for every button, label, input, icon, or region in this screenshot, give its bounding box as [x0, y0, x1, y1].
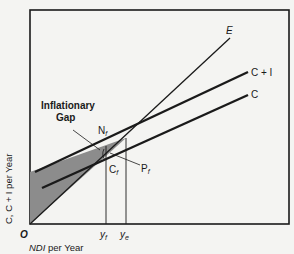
yf-label: yf [99, 229, 108, 241]
pf-label: Pf [141, 163, 151, 175]
c-plus-i-label: C + I [251, 67, 272, 78]
inflationary-gap-diagram: E C + I C Inflationary Gap Nf Cf Pf O yf… [0, 0, 294, 254]
c-label: C [251, 89, 258, 100]
gap-label-line1: Inflationary [41, 100, 95, 111]
origin-label: O [20, 229, 28, 240]
x-axis-label: NDI per Year [29, 242, 83, 253]
e-label: E [226, 25, 233, 36]
ye-label: ye [119, 229, 129, 241]
e-line [30, 38, 230, 224]
cf-label: Cf [109, 164, 119, 176]
nf-label: Nf [98, 125, 108, 137]
y-axis-label: C, C + I per Year [3, 154, 14, 225]
gap-label-line2: Gap [56, 112, 75, 123]
